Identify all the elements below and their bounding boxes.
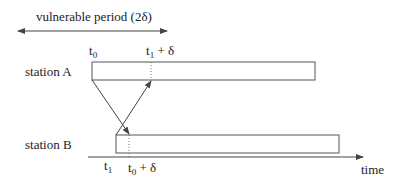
- vulnerable-period-label: vulnerable period (2δ): [36, 10, 152, 23]
- time-label: time: [361, 163, 384, 176]
- propagation-a-to-b-arrow: [92, 80, 129, 134]
- propagation-b-to-a-arrow: [116, 81, 151, 135]
- station-b-label: station B: [25, 138, 72, 151]
- t1-label: t1: [104, 159, 112, 172]
- t1-plus-delta-label: t1 + δ: [146, 44, 174, 57]
- t0-label: t0: [89, 44, 97, 57]
- station-b-frame: [116, 135, 339, 153]
- station-a-label: station A: [25, 65, 72, 78]
- t0-plus-delta-label: t0 + δ: [128, 161, 156, 174]
- diagram-canvas: [0, 0, 399, 184]
- station-a-frame: [92, 62, 315, 80]
